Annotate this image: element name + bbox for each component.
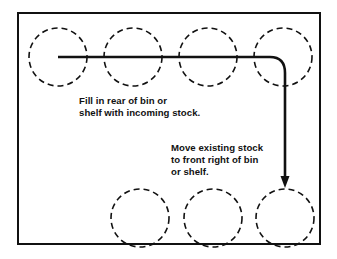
fill-rear-caption-line-1: Fill in rear of bin or bbox=[79, 95, 200, 107]
stock-rotation-diagram: Fill in rear of bin or shelf with incomi… bbox=[0, 0, 337, 259]
front-bin-2 bbox=[184, 189, 242, 247]
fill-rear-caption-line-2: shelf with incoming stock. bbox=[79, 107, 200, 119]
move-existing-caption-line-3: or shelf. bbox=[171, 166, 263, 178]
front-bin-3 bbox=[256, 189, 314, 247]
move-existing-caption: Move existing stock to front right of bi… bbox=[171, 142, 263, 177]
move-existing-caption-line-2: to front right of bin bbox=[171, 154, 263, 166]
diagram-canvas bbox=[0, 0, 337, 259]
stock-flow-arrowhead bbox=[281, 176, 290, 188]
front-row-bins bbox=[111, 189, 314, 247]
move-existing-caption-line-1: Move existing stock bbox=[171, 142, 263, 154]
diagram-frame bbox=[18, 13, 320, 244]
front-bin-1 bbox=[111, 189, 169, 247]
fill-rear-caption: Fill in rear of bin or shelf with incomi… bbox=[79, 95, 200, 119]
